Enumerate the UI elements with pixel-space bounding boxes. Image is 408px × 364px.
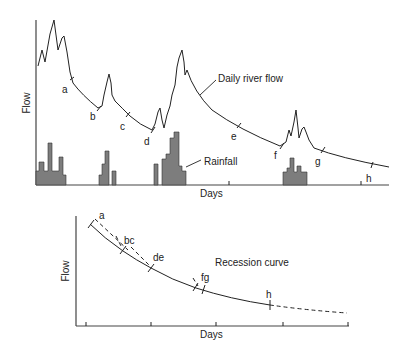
point-label-e: e [231, 131, 237, 142]
point-label-b: b [90, 111, 96, 122]
point-label-a: a [62, 84, 68, 95]
top-chart: Flow Days a b c [21, 20, 389, 199]
curve-label-bc: bc [124, 235, 135, 246]
curve-label-h: h [266, 289, 272, 300]
point-label-d: d [144, 136, 150, 147]
flow-leader-line [200, 80, 216, 95]
point-label-f: f [274, 150, 277, 161]
daily-river-flow-label: Daily river flow [218, 73, 284, 84]
rainfall-label: Rainfall [204, 156, 237, 167]
curve-label-fg: fg [201, 272, 209, 283]
top-y-label: Flow [21, 92, 32, 114]
curve-label-a: a [99, 210, 105, 221]
point-label-c: c [120, 121, 125, 132]
segment-de-dashed [131, 247, 150, 266]
point-label-g: g [315, 156, 321, 167]
daily-river-flow-line [38, 20, 389, 167]
top-x-label: Days [200, 188, 223, 199]
curve-label-de: de [153, 252, 165, 263]
recession-curve-extrapolation [270, 305, 347, 313]
bottom-y-label: Flow [60, 260, 71, 282]
rainfall-leader-line [186, 160, 201, 167]
bottom-x-label: Days [200, 329, 223, 340]
point-label-h: h [366, 173, 372, 184]
recession-markers [70, 77, 373, 168]
bottom-chart: Flow Days a bc de fg h Recession curve [60, 210, 349, 340]
recession-curve-label: Recession curve [215, 257, 289, 268]
hydrograph-figure: Flow Days a b c [0, 0, 408, 364]
